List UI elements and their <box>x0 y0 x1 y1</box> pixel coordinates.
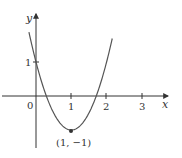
x-tick-label-2: 2 <box>103 101 109 112</box>
parabola-chart: y x 0 1 2 3 1 (1, −1) <box>0 0 182 158</box>
origin-label: 0 <box>27 100 33 111</box>
y-axis-label: y <box>25 12 33 25</box>
x-tick-label-3: 3 <box>139 101 145 112</box>
vertex-point <box>69 129 73 133</box>
y-tick-label-1: 1 <box>25 57 31 68</box>
x-tick-label-1: 1 <box>68 101 74 112</box>
vertex-label: (1, −1) <box>56 137 91 148</box>
x-axis-label: x <box>162 98 169 111</box>
parabola-curve <box>29 32 112 130</box>
